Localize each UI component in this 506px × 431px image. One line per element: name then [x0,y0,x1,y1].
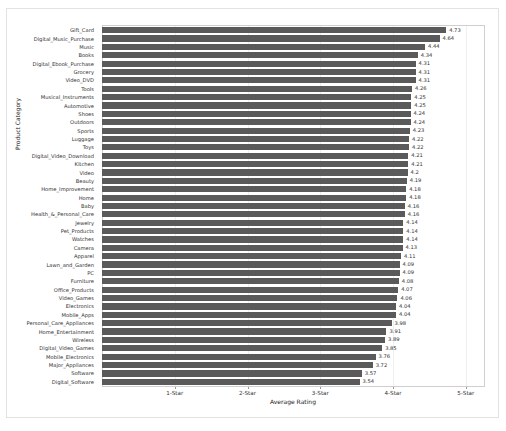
category-label: Shoes [78,110,94,118]
bar[interactable] [102,128,410,134]
bar[interactable] [102,35,440,41]
bar-row[interactable]: 4.13 [102,244,484,252]
bar[interactable] [102,44,425,50]
bar[interactable] [102,169,408,175]
bar-row[interactable]: 3.85 [102,344,484,352]
bar[interactable] [102,27,446,33]
bar[interactable] [102,94,411,100]
category-label: Musical_Instruments [41,93,94,101]
bar-row[interactable]: 4.14 [102,219,484,227]
bar[interactable] [102,77,416,83]
bar[interactable] [102,211,405,217]
bar-row[interactable]: 4.19 [102,177,484,185]
chart-figure: Gift_CardDigital_Music_PurchaseMusicBook… [0,0,506,431]
bar[interactable] [102,245,403,251]
bar[interactable] [102,228,403,234]
category-label: Personal_Care_Appliances [27,319,94,327]
bar[interactable] [102,261,400,267]
bar[interactable] [102,253,401,259]
bar-row[interactable]: 4.22 [102,143,484,151]
bar-row[interactable]: 3.91 [102,327,484,335]
category-label: Toys [83,143,94,151]
bar[interactable] [102,111,411,117]
bar-row[interactable]: 4.64 [102,34,484,42]
bar[interactable] [102,136,409,142]
bar-row[interactable]: 4.31 [102,76,484,84]
bar-row[interactable]: 3.76 [102,353,484,361]
bar[interactable] [102,270,400,276]
bar-row[interactable]: 4.25 [102,93,484,101]
bar-row[interactable]: 3.98 [102,319,484,327]
bar[interactable] [102,278,399,284]
bar-row[interactable]: 4.21 [102,160,484,168]
bar-row[interactable]: 3.72 [102,361,484,369]
category-label: Automotive [64,102,94,110]
category-label: Gift_Card [70,26,94,34]
category-label: Video [79,169,94,177]
x-tick-label: 4-Star [385,390,402,396]
bar[interactable] [102,379,360,385]
bar[interactable] [102,337,385,343]
bar[interactable] [102,203,405,209]
bar-row[interactable]: 4.11 [102,252,484,260]
bar-row[interactable]: 4.14 [102,235,484,243]
bar-row[interactable]: 4.09 [102,269,484,277]
bar-row[interactable]: 3.89 [102,336,484,344]
bar-row[interactable]: 4.24 [102,118,484,126]
bar-row[interactable]: 3.54 [102,378,484,386]
bar-row[interactable]: 4.25 [102,101,484,109]
bar-row[interactable]: 4.2 [102,168,484,176]
bar[interactable] [102,220,403,226]
bar-row[interactable]: 3.57 [102,369,484,377]
bar-row[interactable]: 4.21 [102,152,484,160]
bar[interactable] [102,86,412,92]
bar-row[interactable]: 4.04 [102,311,484,319]
bar-row[interactable]: 4.18 [102,193,484,201]
bar-row[interactable]: 4.04 [102,302,484,310]
bar-row[interactable]: 4.24 [102,110,484,118]
bar[interactable] [102,178,407,184]
bar[interactable] [102,195,406,201]
bar[interactable] [102,362,373,368]
bar-row[interactable]: 4.14 [102,227,484,235]
bar[interactable] [102,161,408,167]
category-label: Video_DVD [65,76,94,84]
bar-row[interactable]: 4.18 [102,185,484,193]
bar[interactable] [102,144,409,150]
category-label: Video_Games [59,294,94,302]
bar[interactable] [102,320,392,326]
bar[interactable] [102,153,408,159]
bar[interactable] [102,52,418,58]
bar-row[interactable]: 4.07 [102,286,484,294]
category-label: Watches [72,235,94,243]
bar[interactable] [102,236,403,242]
category-label: Health_&_Personal_Care [31,210,94,218]
category-label: Mobile_Apps [62,311,94,319]
bar-row[interactable]: 4.26 [102,85,484,93]
bar[interactable] [102,345,382,351]
bar-row[interactable]: 4.09 [102,260,484,268]
bar[interactable] [102,119,411,125]
bar-row[interactable]: 4.06 [102,294,484,302]
bar[interactable] [102,370,362,376]
x-tick-label: 5-Star [457,390,474,396]
bar[interactable] [102,295,397,301]
bar-row[interactable]: 4.16 [102,202,484,210]
bar[interactable] [102,287,398,293]
bar-row[interactable]: 4.23 [102,126,484,134]
category-label: Digital_Video_Download [32,152,94,160]
bar[interactable] [102,328,386,334]
bar[interactable] [102,102,411,108]
bar[interactable] [102,186,406,192]
bar[interactable] [102,312,396,318]
bar[interactable] [102,61,416,67]
bar[interactable] [102,69,416,75]
bar-row[interactable]: 4.08 [102,277,484,285]
bar[interactable] [102,303,396,309]
bar-row[interactable]: 4.16 [102,210,484,218]
x-tick-mark [175,387,176,389]
bar-row[interactable]: 4.73 [102,26,484,34]
bar-row[interactable]: 4.22 [102,135,484,143]
x-tick-label: 1-Star [166,390,183,396]
bar[interactable] [102,354,376,360]
